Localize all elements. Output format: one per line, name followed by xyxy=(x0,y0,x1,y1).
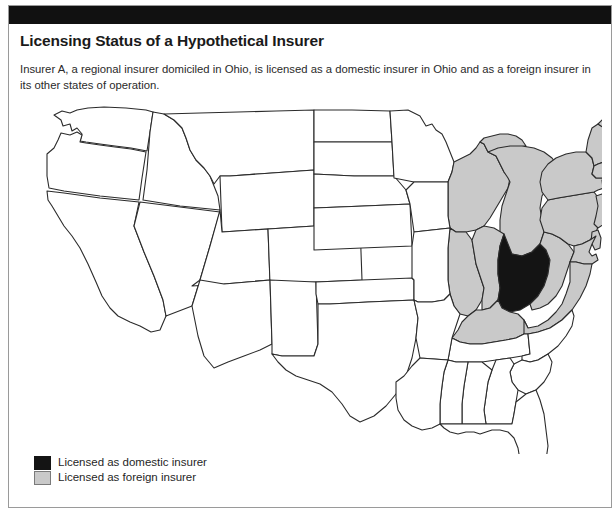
figure-caption: Insurer A, a regional insurer domiciled … xyxy=(20,62,600,93)
legend-item-domestic: Licensed as domestic insurer xyxy=(34,455,334,470)
legend-item-foreign: Licensed as foreign insurer xyxy=(34,470,334,485)
legend-label-foreign: Licensed as foreign insurer xyxy=(58,470,196,485)
legend-swatch-foreign xyxy=(34,471,51,485)
legend-label-domestic: Licensed as domestic insurer xyxy=(58,455,207,470)
figure-root: Licensing Status of a Hypothetical Insur… xyxy=(0,0,616,513)
state-AZ[interactable] xyxy=(192,280,272,368)
figure-title: Licensing Status of a Hypothetical Insur… xyxy=(20,31,580,51)
state-IA[interactable] xyxy=(406,182,450,232)
header-band xyxy=(9,6,611,24)
legend-swatch-domestic xyxy=(34,456,51,470)
state-KS[interactable] xyxy=(314,204,412,250)
state-WY[interactable] xyxy=(220,170,314,232)
state-MN[interactable] xyxy=(390,110,454,182)
state-NM[interactable] xyxy=(270,280,318,356)
state-MO[interactable] xyxy=(412,228,450,302)
us-map-svg xyxy=(14,104,602,454)
state-NE[interactable] xyxy=(314,174,410,208)
state-SD[interactable] xyxy=(314,142,394,176)
state-ND[interactable] xyxy=(314,110,392,142)
us-map xyxy=(14,104,602,454)
map-legend: Licensed as domestic insurer Licensed as… xyxy=(34,455,334,485)
